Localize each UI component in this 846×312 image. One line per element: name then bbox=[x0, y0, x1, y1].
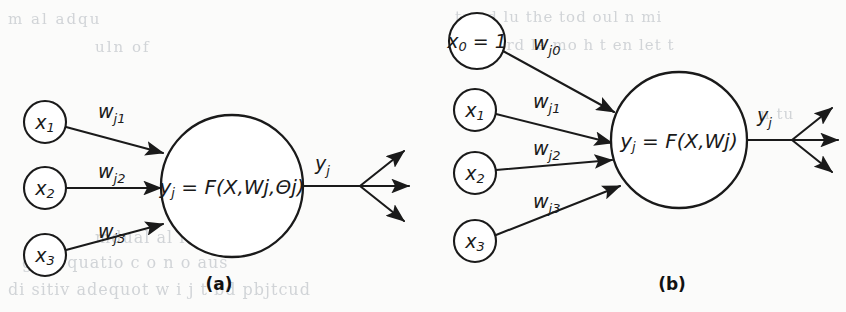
panel-b-caption: (b) bbox=[658, 274, 686, 294]
panel-a-input-node-x1: x1 bbox=[24, 101, 66, 143]
panel-b-synapse-arrow-1 bbox=[496, 114, 612, 143]
panel-a-input-node-x2: x2 bbox=[24, 167, 66, 209]
panel-a: x1 x2 x3 wj1 bbox=[24, 100, 409, 294]
panel-b-weight-label-wj3: wj3 bbox=[533, 190, 560, 216]
panel-a-transfer-function-formula: yj = F(X,Wj,Θj) bbox=[158, 175, 304, 200]
panel-b-input-node-x1: x1 bbox=[454, 89, 496, 131]
panel-b-output-arrow-up bbox=[792, 108, 832, 140]
panel-b-weight-label-wj2: wj2 bbox=[533, 137, 560, 163]
panel-a-weight-label-wj2: wj2 bbox=[98, 160, 125, 186]
panel-b-bias-label-x0: x0 = 1 bbox=[446, 30, 507, 54]
panel-b-input-node-x2: x2 bbox=[454, 152, 496, 194]
panel-b-output-label-yj: yj bbox=[756, 104, 772, 130]
panel-a-weight-label-wj1: wj1 bbox=[98, 100, 125, 126]
neuron-diagram-svg: x1 x2 x3 wj1 bbox=[0, 0, 846, 312]
panel-b-input-node-x3: x3 bbox=[454, 220, 496, 262]
panel-b-input-node-x0: x0 = 1 bbox=[446, 13, 507, 69]
panel-a-output-label-yj: yj bbox=[314, 152, 330, 178]
panel-b-weight-label-wj0: wj0 bbox=[533, 32, 560, 58]
panel-a-output-arrow-down bbox=[360, 186, 404, 221]
panel-a-input-node-x3: x3 bbox=[24, 234, 66, 276]
panel-b-output-arrow-down bbox=[792, 140, 832, 172]
panel-a-output-arrow-up bbox=[360, 151, 404, 186]
panel-b-weight-label-wj1: wj1 bbox=[533, 90, 560, 116]
panel-b: x0 = 1 x1 x2 x3 bbox=[446, 13, 838, 294]
panel-a-weight-label-wj3: wj3 bbox=[98, 220, 125, 246]
panel-a-synapse-arrow-1 bbox=[66, 127, 163, 153]
panel-b-transfer-function-formula: yj = F(X,Wj) bbox=[619, 129, 737, 154]
figure-container: m al adquts ud lu the tod oul n miuln of… bbox=[0, 0, 846, 312]
panel-a-caption: (a) bbox=[205, 274, 232, 294]
